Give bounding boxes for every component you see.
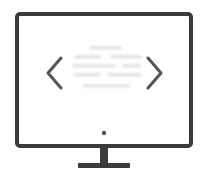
text-line-3-1 xyxy=(73,64,115,67)
text-line-1-1 xyxy=(90,46,122,49)
monitor-illustration xyxy=(0,0,208,176)
text-line-4-2 xyxy=(108,73,141,76)
monitor-stand-neck xyxy=(100,148,108,164)
text-line-3-2 xyxy=(122,64,141,67)
monitor-stand-base xyxy=(78,163,130,168)
text-line-2-2 xyxy=(110,55,142,58)
illustration-canvas: Monitor slideshow xyxy=(0,0,208,176)
text-line-4-1 xyxy=(74,73,100,76)
power-indicator-icon xyxy=(102,131,106,135)
text-line-2-1 xyxy=(74,55,101,58)
text-line-5-1 xyxy=(83,84,130,87)
